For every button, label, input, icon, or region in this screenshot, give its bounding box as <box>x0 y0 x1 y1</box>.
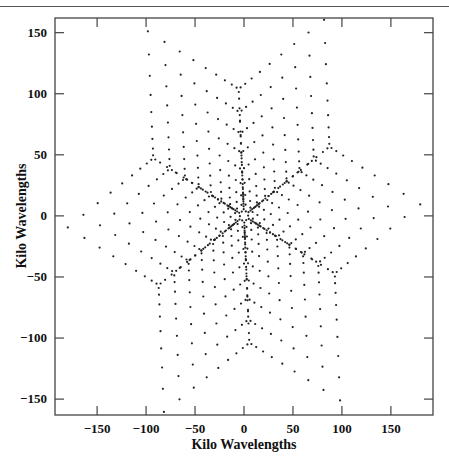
uv-point <box>271 356 273 358</box>
uv-point <box>284 241 286 243</box>
axis-ticks <box>55 18 433 415</box>
uv-point <box>336 271 338 273</box>
uv-point <box>228 175 230 177</box>
uv-point <box>248 218 250 220</box>
uv-point <box>220 231 222 233</box>
uv-point <box>244 236 246 238</box>
uv-point <box>194 254 196 256</box>
uv-point <box>245 266 247 268</box>
uv-point <box>194 104 196 106</box>
uv-point <box>338 376 340 378</box>
uv-point <box>235 221 237 223</box>
uv-point <box>246 296 248 298</box>
uv-point <box>245 259 247 261</box>
uv-point <box>248 279 250 281</box>
uv-point <box>319 260 321 262</box>
uv-point <box>344 199 346 201</box>
uv-point <box>166 267 168 269</box>
uv-point <box>250 222 252 224</box>
uv-point <box>135 270 137 272</box>
uv-point <box>205 236 207 238</box>
uv-point <box>223 221 225 223</box>
uv-point <box>290 275 292 277</box>
uv-point <box>144 275 146 277</box>
uv-point <box>209 243 211 245</box>
uv-point <box>243 208 245 210</box>
uv-point <box>290 242 292 244</box>
uv-point <box>178 235 180 237</box>
data-points <box>67 19 422 413</box>
uv-point <box>259 270 261 272</box>
uv-point <box>273 158 275 160</box>
uv-point <box>244 280 246 282</box>
uv-point <box>307 379 309 381</box>
uv-point <box>244 232 246 234</box>
uv-point <box>326 100 328 102</box>
uv-point <box>215 303 217 305</box>
uv-point <box>244 242 246 244</box>
uv-point <box>248 339 250 341</box>
uv-point <box>318 281 320 283</box>
uv-point <box>227 208 229 210</box>
uv-point <box>205 190 207 192</box>
uv-point <box>298 151 300 153</box>
uv-point <box>256 195 258 197</box>
uv-point <box>246 278 248 280</box>
uv-point <box>273 170 275 172</box>
uv-point <box>259 202 261 204</box>
uv-point <box>347 262 349 264</box>
uv-point <box>361 167 363 169</box>
uv-point <box>97 202 99 204</box>
uv-point <box>348 237 350 239</box>
uv-point <box>239 130 241 132</box>
uv-point <box>163 411 165 413</box>
uv-point <box>299 189 301 191</box>
uv-point <box>204 246 206 248</box>
uv-point <box>202 189 204 191</box>
uv-point <box>215 74 217 76</box>
uv-point <box>248 163 250 165</box>
uv-point <box>236 110 238 112</box>
uv-point <box>230 216 232 218</box>
uv-point <box>208 223 210 225</box>
uv-point <box>302 255 304 257</box>
uv-point <box>188 269 190 271</box>
uv-point <box>325 63 327 65</box>
uv-point <box>321 366 323 368</box>
uv-point <box>128 222 130 224</box>
uv-point <box>281 239 283 241</box>
uv-point <box>171 169 173 171</box>
uv-point <box>307 163 309 165</box>
uv-point <box>301 171 303 173</box>
uv-point <box>252 218 254 220</box>
uv-point <box>269 231 271 233</box>
uv-point <box>225 102 227 104</box>
uv-point <box>238 212 240 214</box>
uv-point <box>336 336 338 338</box>
uv-point <box>303 284 305 286</box>
uv-point <box>261 200 263 202</box>
uv-point <box>372 196 374 198</box>
uv-point <box>268 292 270 294</box>
y-tick-label: 150 <box>0 25 47 41</box>
uv-point <box>331 191 333 193</box>
uv-point <box>240 143 242 145</box>
uv-point <box>222 235 224 237</box>
uv-point <box>241 211 243 213</box>
uv-point <box>235 191 237 193</box>
uv-point <box>244 194 246 196</box>
uv-point <box>179 267 181 269</box>
uv-point <box>260 225 262 227</box>
uv-point <box>138 193 140 195</box>
uv-point <box>335 292 337 294</box>
uv-point <box>332 271 334 273</box>
uv-point <box>285 177 287 179</box>
uv-point <box>262 152 264 154</box>
uv-point <box>163 41 165 43</box>
uv-point <box>328 126 330 128</box>
uv-point <box>234 212 236 214</box>
uv-point <box>247 322 249 324</box>
uv-point <box>148 53 150 55</box>
uv-point <box>346 179 348 181</box>
uv-point <box>227 143 229 145</box>
